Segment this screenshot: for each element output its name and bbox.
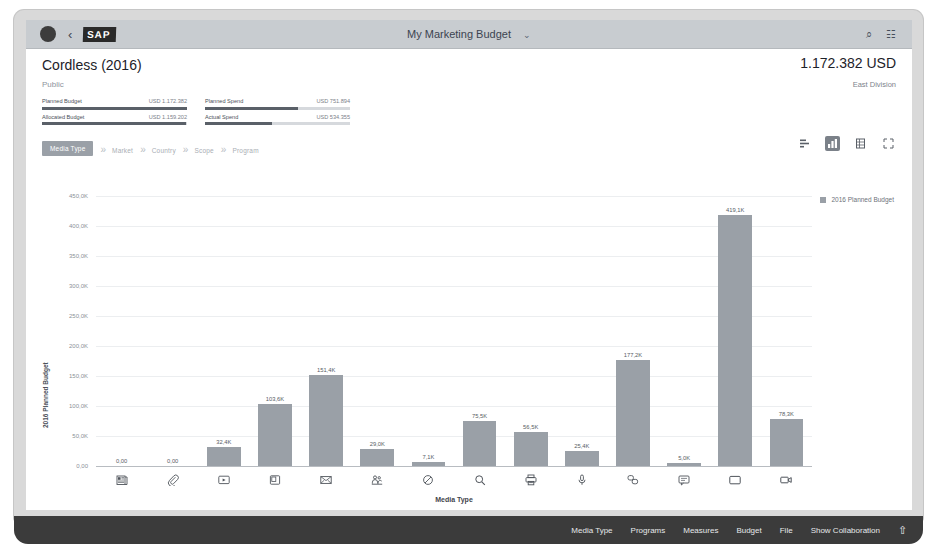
budget-metric-value: USD 534.355 (316, 115, 350, 121)
budget-fill (42, 122, 186, 125)
bar[interactable] (718, 215, 752, 466)
bar[interactable] (207, 447, 241, 466)
chart-plot: 450,0K400,0K350,0K300,0K250,0K200,0K150,… (96, 196, 812, 466)
bar-value-label: 25,4K (574, 443, 589, 449)
chart-area: 2016 Planned Budget 450,0K400,0K350,0K30… (26, 188, 912, 510)
device-frame: ‹ SAP My Marketing Budget ⌄ ⌕ ☷ Cordless… (0, 0, 937, 556)
bar-value-label: 0,00 (116, 458, 127, 464)
app-screen: ‹ SAP My Marketing Budget ⌄ ⌕ ☷ Cordless… (26, 20, 912, 510)
bar-slot[interactable]: 0,00 (96, 196, 147, 466)
bar-value-label: 75,5K (472, 413, 487, 419)
people-event-icon[interactable] (352, 474, 403, 486)
footer-item-measures[interactable]: Measures (683, 526, 718, 535)
bar[interactable] (463, 421, 497, 466)
x-axis-icons (96, 474, 812, 486)
back-icon[interactable]: ‹ (68, 28, 72, 41)
drill-item[interactable]: Market (112, 147, 133, 154)
bar[interactable] (412, 462, 446, 466)
shell-title-group[interactable]: My Marketing Budget ⌄ (26, 28, 912, 40)
drill-item[interactable]: Program (232, 147, 258, 154)
budget-metric-label: Planned Spend (205, 99, 243, 105)
budget-track (42, 107, 187, 110)
magnifier-icon[interactable] (454, 474, 505, 486)
bar-slot[interactable]: 32,4K (198, 196, 249, 466)
budget-track (205, 122, 350, 125)
drill-separator-icon: » (221, 144, 227, 155)
drill-item[interactable]: Scope (194, 147, 213, 154)
laptop-icon[interactable] (249, 474, 300, 486)
share-icon[interactable]: ⇧ (898, 525, 907, 536)
no-entry-radio-icon[interactable] (403, 474, 454, 486)
bar-slot[interactable]: 0,00 (147, 196, 198, 466)
menu-icon[interactable]: ☷ (886, 29, 896, 40)
budget-metric: Planned SpendUSD 751.894 (205, 99, 350, 110)
bar[interactable] (309, 375, 343, 466)
x-axis-title: Media Type (96, 496, 812, 503)
y-axis-tick-label: 350,0K (69, 253, 88, 259)
search-icon[interactable]: ⌕ (866, 29, 872, 40)
y-axis-tick-label: 200,0K (69, 343, 88, 349)
bar-slot[interactable]: 56,5K (505, 196, 556, 466)
bar-chart-horizontal-icon[interactable] (797, 136, 812, 151)
display-ad-icon[interactable] (198, 474, 249, 486)
bar[interactable] (360, 449, 394, 466)
drill-items: »Market»Country»Scope»Program (93, 139, 258, 157)
footer-item-show-collaboration[interactable]: Show Collaboration (811, 526, 880, 535)
title-band: Cordless (2016) Public 1.172.382 USD Eas… (26, 49, 912, 93)
chevron-down-icon[interactable]: ⌄ (523, 30, 531, 40)
budget-metric-label: Actual Spend (205, 115, 238, 121)
footer-item-budget[interactable]: Budget (736, 526, 761, 535)
budget-column: Planned SpendUSD 751.894Actual SpendUSD … (205, 99, 350, 130)
table-view-icon[interactable] (853, 136, 868, 151)
footer-item-media-type[interactable]: Media Type (571, 526, 612, 535)
budget-summary: Planned BudgetUSD 1.172.382Allocated Bud… (26, 93, 912, 130)
fullscreen-icon[interactable] (881, 136, 896, 151)
bar-slot[interactable]: 75,5K (454, 196, 505, 466)
budget-metric: Allocated BudgetUSD 1.159.202 (42, 115, 187, 126)
footer-item-programs[interactable]: Programs (631, 526, 666, 535)
bar[interactable] (667, 463, 701, 466)
bar-slot[interactable]: 7,1K (403, 196, 454, 466)
budget-metric: Actual SpendUSD 534.355 (205, 115, 350, 126)
y-axis-title: 2016 Planned Budget (42, 362, 49, 428)
bar-slot[interactable]: 5,0K (659, 196, 710, 466)
y-axis-tick-label: 300,0K (69, 283, 88, 289)
bar[interactable] (770, 419, 804, 466)
bar-value-label: 151,4K (317, 367, 335, 373)
bar-slot[interactable]: 151,4K (301, 196, 352, 466)
chat-bubble-icon[interactable] (659, 474, 710, 486)
drill-breadcrumb: Media Type »Market»Country»Scope»Program (26, 130, 912, 162)
drill-separator-icon: » (100, 144, 106, 155)
page-visibility-label: Public (42, 80, 896, 89)
newspaper-icon[interactable] (96, 474, 147, 486)
television-icon[interactable] (710, 474, 761, 486)
bar[interactable] (258, 404, 292, 466)
budget-column: Planned BudgetUSD 1.172.382Allocated Bud… (42, 99, 187, 130)
bar-slot[interactable]: 103,6K (249, 196, 300, 466)
bar-value-label: 32,4K (216, 439, 231, 445)
bar-slot[interactable]: 177,2K (607, 196, 658, 466)
bar-value-label: 0,00 (167, 458, 178, 464)
bar[interactable] (616, 360, 650, 466)
bar[interactable] (565, 451, 599, 466)
sap-logo[interactable]: SAP (83, 27, 116, 42)
bar-slot[interactable]: 25,4K (556, 196, 607, 466)
avatar[interactable] (40, 26, 56, 42)
printer-icon[interactable] (505, 474, 556, 486)
drill-item[interactable]: Country (152, 147, 176, 154)
video-camera-icon[interactable] (761, 474, 812, 486)
budget-metric-value: USD 1.159.202 (149, 115, 187, 121)
bar-slot[interactable]: 419,1K (710, 196, 761, 466)
drill-active-chip[interactable]: Media Type (42, 141, 93, 156)
bar[interactable] (514, 432, 548, 466)
column-chart-icon[interactable] (825, 136, 840, 151)
budget-fill (42, 107, 187, 110)
bar-value-label: 78,3K (779, 411, 794, 417)
paperclip-icon[interactable] (147, 474, 198, 486)
bar-slot[interactable]: 29,0K (352, 196, 403, 466)
envelope-icon[interactable] (301, 474, 352, 486)
bar-slot[interactable]: 78,3K (761, 196, 812, 466)
microphone-icon[interactable] (556, 474, 607, 486)
footer-item-file[interactable]: File (780, 526, 793, 535)
social-share-icon[interactable] (607, 474, 658, 486)
